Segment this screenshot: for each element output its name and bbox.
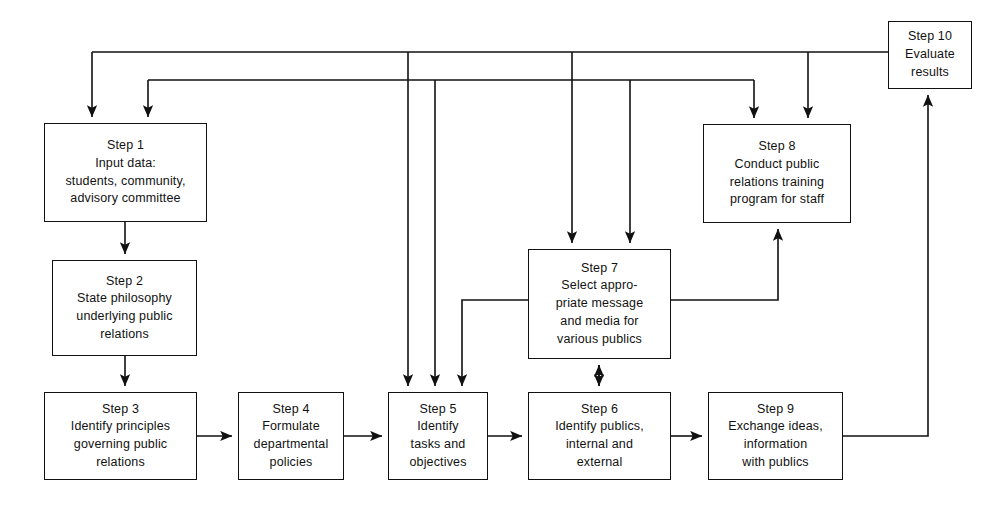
node-step5-line-2: tasks and xyxy=(411,436,466,454)
node-step6[interactable]: Step 6 Identify publics, internal and ex… xyxy=(528,392,671,480)
node-step6-line-2: internal and xyxy=(566,436,633,454)
node-step8[interactable]: Step 8 Conduct public relations training… xyxy=(703,124,851,223)
node-step3-line-2: governing public xyxy=(74,436,167,454)
node-step6-line-3: external xyxy=(577,454,623,472)
node-step7-line-4: various publics xyxy=(557,331,642,349)
wire-step7-to-step5 xyxy=(462,300,528,386)
node-step1[interactable]: Step 1 Input data: students, community, … xyxy=(44,123,207,222)
node-step3-line-1: Identify principles xyxy=(71,418,170,436)
node-step2-line-0: Step 2 xyxy=(106,273,143,291)
node-step1-line-1: Input data: xyxy=(95,155,156,173)
node-step9-line-2: information xyxy=(744,436,808,454)
wire-step9-to-step10 xyxy=(843,95,928,436)
node-step2-line-2: underlying public xyxy=(76,308,172,326)
node-step5-line-1: Identify xyxy=(417,418,459,436)
flowchart-canvas: Step 1 Input data: students, community, … xyxy=(0,0,1008,517)
node-step9-line-3: with publics xyxy=(742,454,808,472)
node-step1-line-0: Step 1 xyxy=(107,137,144,155)
node-step5[interactable]: Step 5 Identify tasks and objectives xyxy=(388,392,488,480)
node-step10[interactable]: Step 10 Evaluate results xyxy=(888,21,972,89)
node-step8-line-3: program for staff xyxy=(730,191,824,209)
node-step2-line-1: State philosophy xyxy=(77,290,172,308)
node-step8-line-0: Step 8 xyxy=(758,138,795,156)
node-step2[interactable]: Step 2 State philosophy underlying publi… xyxy=(52,260,197,356)
node-step5-line-0: Step 5 xyxy=(419,401,456,419)
node-step1-line-2: students, community, xyxy=(65,173,185,191)
node-step4-line-1: Formulate xyxy=(262,418,320,436)
node-step4-line-2: departmental xyxy=(254,436,329,454)
node-step8-line-1: Conduct public xyxy=(735,156,820,174)
node-step4-line-0: Step 4 xyxy=(272,401,309,419)
node-step5-line-3: objectives xyxy=(409,454,466,472)
node-step10-line-1: Evaluate xyxy=(905,46,955,64)
node-step9-line-0: Step 9 xyxy=(757,401,794,419)
wire-step7-to-step8 xyxy=(671,229,778,300)
node-step9-line-1: Exchange ideas, xyxy=(728,418,823,436)
node-step3-line-0: Step 3 xyxy=(102,401,139,419)
node-step4[interactable]: Step 4 Formulate departmental policies xyxy=(238,392,344,480)
node-step7-line-0: Step 7 xyxy=(581,260,618,278)
node-step6-line-0: Step 6 xyxy=(581,401,618,419)
node-step7-line-1: Select appro- xyxy=(561,277,637,295)
node-step2-line-3: relations xyxy=(100,326,149,344)
node-step3-line-3: relations xyxy=(96,454,145,472)
node-step7-line-3: and media for xyxy=(560,313,638,331)
node-step8-line-2: relations training xyxy=(730,174,824,192)
node-step3[interactable]: Step 3 Identify principles governing pub… xyxy=(44,392,197,480)
node-step9[interactable]: Step 9 Exchange ideas, information with … xyxy=(708,392,843,480)
node-step6-line-1: Identify publics, xyxy=(555,418,644,436)
node-step1-line-3: advisory committee xyxy=(70,190,180,208)
node-step10-line-2: results xyxy=(911,64,949,82)
node-step7[interactable]: Step 7 Select appro- priate message and … xyxy=(528,249,671,359)
node-step4-line-3: policies xyxy=(270,454,313,472)
node-step7-line-2: priate message xyxy=(556,295,644,313)
node-step10-line-0: Step 10 xyxy=(908,28,952,46)
